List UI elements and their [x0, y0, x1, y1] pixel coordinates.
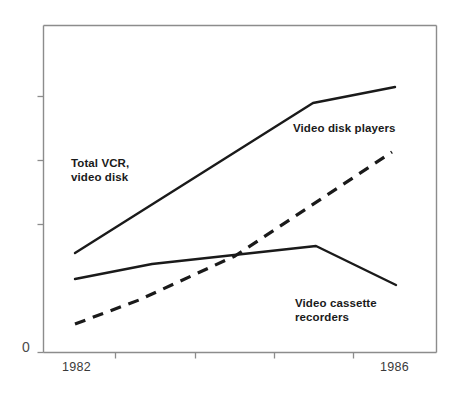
series-label-line-1: Video cassette	[295, 297, 377, 309]
series-label-total-vcr-video-disk: Total VCR,video disk	[71, 156, 129, 184]
x-axis-tick-label-1986: 1986	[380, 360, 409, 374]
y-axis-origin-label: 0	[22, 339, 30, 355]
series-label-line-2: recorders	[295, 311, 349, 323]
series-label-line-1: Video disk players	[293, 122, 396, 134]
chart-figure: Total VCR,video disk Video disk players …	[0, 0, 453, 398]
series-label-line-2: video disk	[71, 171, 128, 183]
y-axis-ticks	[38, 97, 44, 353]
chart-plot-area	[0, 0, 453, 398]
x-axis-tick-label-1982: 1982	[62, 360, 91, 374]
series-label-line-1: Total VCR,	[71, 157, 129, 169]
series-line-video-cassette-recorders	[75, 246, 396, 285]
x-axis-ticks	[116, 353, 354, 359]
series-label-video-cassette-recorders: Video cassetterecorders	[295, 296, 377, 324]
series-label-video-disk-players: Video disk players	[293, 121, 396, 135]
plot-frame	[44, 26, 437, 353]
